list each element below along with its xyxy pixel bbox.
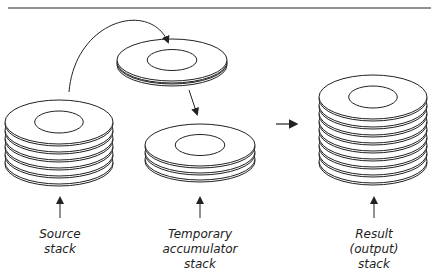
label-line: stack xyxy=(314,257,434,272)
source-stack-label: Source stack xyxy=(0,227,120,257)
label-line: Temporary xyxy=(140,227,260,242)
label-line: stack xyxy=(140,257,260,272)
label-line: (output) xyxy=(314,242,434,257)
temporary-stack-label: Temporary accumulator stack xyxy=(140,227,260,272)
source-stack xyxy=(5,100,113,186)
plate-well xyxy=(35,111,84,133)
plate-well xyxy=(147,50,197,71)
label-line: accumulator xyxy=(140,242,260,257)
label-line: stack xyxy=(0,242,120,257)
label-line: Result xyxy=(314,227,434,242)
plate-well xyxy=(349,86,398,108)
result-stack-label: Result (output) stack xyxy=(314,227,434,272)
down-arrow xyxy=(189,90,197,114)
temporary-stack xyxy=(145,124,255,182)
moving-plate xyxy=(117,39,227,86)
result-stack xyxy=(319,75,427,185)
label-line: Source xyxy=(0,227,120,242)
plate-well xyxy=(175,135,225,156)
